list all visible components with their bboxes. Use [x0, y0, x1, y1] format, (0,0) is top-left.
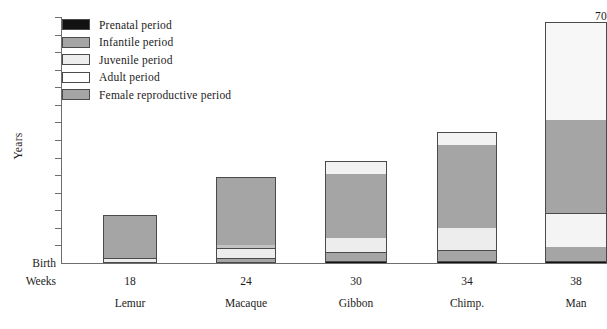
- bar-segment-prenatal: [546, 262, 606, 263]
- y-axis-tick: [55, 17, 61, 18]
- y-axis-tick: [55, 245, 61, 246]
- bar-segment-prenatal: [326, 262, 386, 263]
- legend-swatch-adult: [62, 72, 90, 83]
- bar-segment-infantile: [438, 251, 496, 261]
- y-axis-title: Years: [12, 116, 24, 176]
- x-axis-weeks-lemur: 18: [90, 275, 170, 287]
- y-axis-tick-label: 70: [555, 11, 607, 23]
- y-axis-tick: [55, 87, 61, 88]
- baseline-birth-label: Birth: [4, 257, 56, 269]
- y-axis-tick: [55, 210, 61, 211]
- y-axis-tick: [55, 35, 61, 36]
- x-axis-category-gibbon: Gibbon: [316, 297, 396, 309]
- x-axis-line: [61, 263, 607, 264]
- bar-gibbon: [325, 161, 387, 263]
- bar-segment-female_reproductive_low: [546, 194, 606, 213]
- bar-macaque: [216, 177, 276, 263]
- bar-segment-female_reproductive: [217, 178, 275, 245]
- legend-swatch-juvenile: [62, 54, 90, 65]
- x-axis-category-lemur: Lemur: [90, 297, 170, 309]
- legend-item-female_reproductive: Female reproductive period: [62, 86, 322, 104]
- bar-segment-female_reproductive: [104, 216, 156, 255]
- x-axis-weeks-man: 38: [536, 275, 607, 287]
- bar-segment-adult: [326, 162, 386, 174]
- legend: Prenatal periodInfantile periodJuvenile …: [62, 16, 322, 104]
- legend-item-infantile: Infantile period: [62, 34, 322, 52]
- bar-segment-female_reproductive: [326, 174, 386, 238]
- bar-segment-infantile: [326, 253, 386, 261]
- y-axis-tick: [55, 228, 61, 229]
- x-axis-category-man: Man: [536, 297, 607, 309]
- legend-swatch-female_reproductive: [62, 89, 90, 100]
- legend-label-adult: Adult period: [99, 71, 160, 83]
- legend-label-infantile: Infantile period: [99, 36, 173, 48]
- legend-swatch-prenatal: [62, 19, 90, 30]
- x-axis-weeks-chimp: 34: [427, 275, 507, 287]
- bar-segment-prenatal: [438, 262, 496, 263]
- legend-item-juvenile: Juvenile period: [62, 51, 322, 69]
- bar-lemur: [103, 215, 157, 263]
- axis-weeks-label: Weeks: [4, 275, 56, 287]
- legend-item-prenatal: Prenatal period: [62, 16, 322, 34]
- y-axis-tick: [55, 193, 61, 194]
- x-axis-weeks-macaque: 24: [206, 275, 286, 287]
- x-axis-category-chimp: Chimp.: [427, 297, 507, 309]
- chart-canvas: 706050403020105 Years Birth Weeks 18Lemu…: [0, 0, 607, 329]
- y-axis-tick: [55, 140, 61, 141]
- legend-label-juvenile: Juvenile period: [99, 54, 173, 66]
- bar-segment-female_reproductive: [438, 145, 496, 228]
- y-axis-tick: [55, 70, 61, 71]
- bar-segment-adult: [546, 23, 606, 120]
- bar-chimp: [437, 132, 497, 263]
- y-axis-tick: [55, 122, 61, 123]
- bar-segment-juvenile: [217, 249, 275, 258]
- x-axis-category-macaque: Macaque: [206, 297, 286, 309]
- legend-item-adult: Adult period: [62, 69, 322, 87]
- legend-swatch-infantile: [62, 37, 90, 48]
- bar-segment-juvenile: [326, 238, 386, 252]
- bar-man: [545, 22, 607, 263]
- y-axis-tick: [55, 175, 61, 176]
- y-axis-tick: [55, 52, 61, 53]
- bar-segment-juvenile: [438, 228, 496, 250]
- x-axis-weeks-gibbon: 30: [316, 275, 396, 287]
- y-axis-tick: [55, 158, 61, 159]
- bar-segment-female_reproductive: [546, 120, 606, 194]
- legend-label-female_reproductive: Female reproductive period: [99, 89, 231, 101]
- y-axis-tick: [55, 105, 61, 106]
- legend-label-prenatal: Prenatal period: [99, 19, 172, 31]
- bar-segment-adult: [438, 133, 496, 145]
- bar-segment-juvenile: [546, 214, 606, 247]
- bar-segment-infantile: [546, 247, 606, 261]
